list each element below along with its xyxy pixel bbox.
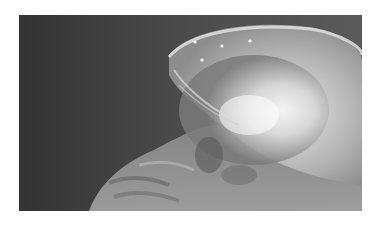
marker-dot (248, 39, 251, 42)
xray-image (19, 15, 362, 211)
marker-dot (220, 44, 223, 47)
skull-radiograph (19, 15, 362, 211)
marker-dot (193, 40, 196, 43)
marker-dot (200, 58, 203, 61)
